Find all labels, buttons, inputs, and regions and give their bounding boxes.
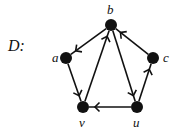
digraph — [0, 0, 179, 135]
node-label-b: b — [107, 3, 114, 16]
node-label-a: a — [52, 51, 59, 64]
node-label-c: c — [163, 51, 169, 64]
node-v — [77, 101, 89, 113]
node-c — [147, 52, 159, 64]
node-label-u: u — [133, 116, 140, 129]
node-b — [105, 19, 117, 31]
node-u — [131, 101, 143, 113]
node-a — [60, 52, 72, 64]
node-label-v: v — [79, 116, 85, 129]
